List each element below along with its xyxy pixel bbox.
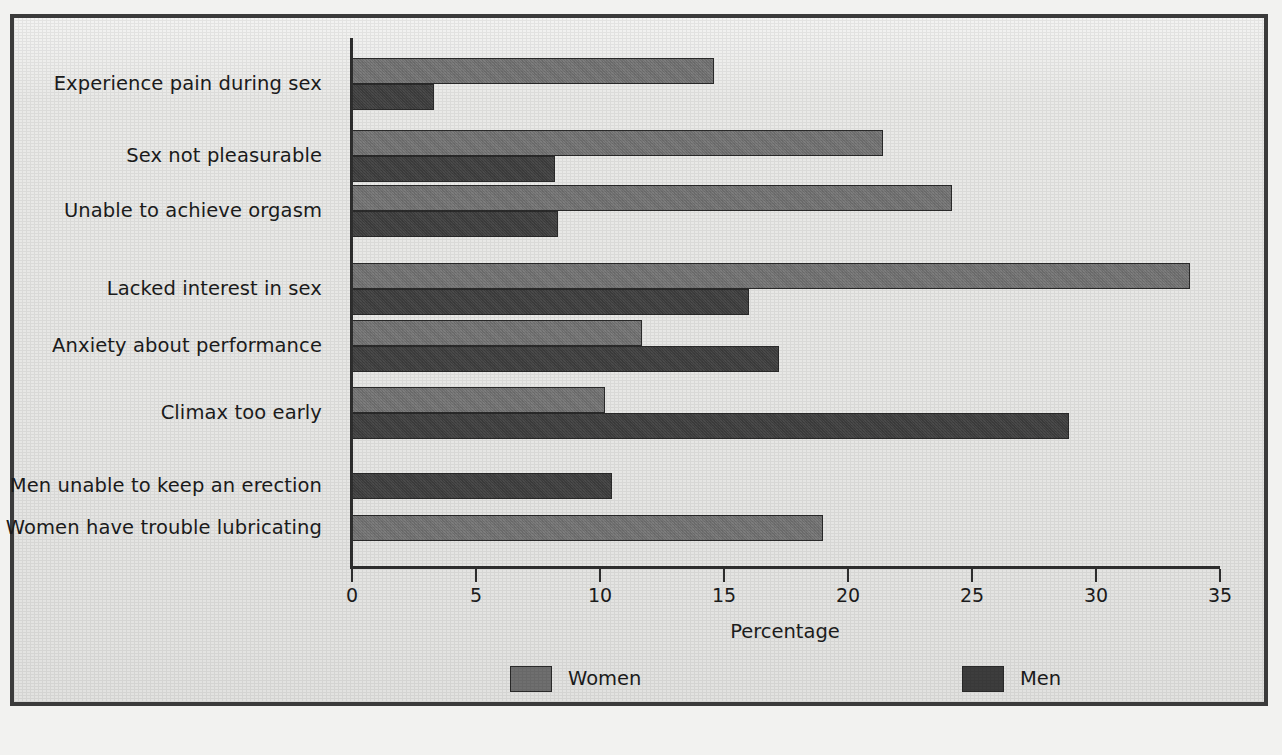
chart-figure-frame: Experience pain during sex Sex not pleas…: [10, 14, 1268, 706]
x-tick-label-20: 20: [836, 586, 860, 605]
bar-women-7: [352, 515, 823, 541]
page-canvas: Experience pain during sex Sex not pleas…: [0, 0, 1282, 755]
x-tick-35: [1219, 569, 1221, 582]
x-axis-title: Percentage: [350, 620, 1220, 643]
bar-men-0: [352, 84, 434, 110]
bar-men-2: [352, 211, 558, 237]
bar-women-1: [352, 130, 883, 156]
category-label-3: Lacked interest in sex: [107, 279, 322, 299]
bar-women-4: [352, 320, 642, 346]
y-axis-line: [350, 38, 353, 566]
x-tick-15: [723, 569, 725, 582]
x-tick-label-35: 35: [1208, 586, 1232, 605]
x-axis-line: [350, 566, 1220, 569]
legend-swatch-women-icon: [510, 666, 552, 692]
bar-women-5: [352, 387, 605, 413]
bar-men-3: [352, 289, 749, 315]
category-label-1: Sex not pleasurable: [126, 146, 322, 166]
category-label-5: Climax too early: [161, 403, 322, 423]
bar-women-0: [352, 58, 714, 84]
category-label-6: Men unable to keep an erection: [10, 476, 322, 496]
x-tick-label-0: 0: [346, 586, 358, 605]
category-label-2: Unable to achieve orgasm: [64, 201, 322, 221]
x-tick-label-30: 30: [1084, 586, 1108, 605]
bar-men-4: [352, 346, 779, 372]
bar-chart-plot-area: Experience pain during sex Sex not pleas…: [14, 18, 1264, 702]
legend-label-women: Women: [568, 669, 641, 689]
x-tick-5: [475, 569, 477, 582]
bar-women-3: [352, 263, 1190, 289]
category-label-4: Anxiety about performance: [52, 336, 322, 356]
x-tick-label-25: 25: [960, 586, 984, 605]
bar-men-1: [352, 156, 555, 182]
legend-label-men: Men: [1020, 669, 1061, 689]
x-tick-25: [971, 569, 973, 582]
category-label-7: Women have trouble lubricating: [6, 518, 322, 538]
legend-swatch-men-icon: [962, 666, 1004, 692]
x-tick-10: [599, 569, 601, 582]
x-tick-30: [1095, 569, 1097, 582]
category-label-0: Experience pain during sex: [54, 74, 322, 94]
bar-men-5: [352, 413, 1069, 439]
x-tick-label-15: 15: [712, 586, 736, 605]
legend-item-women: Women: [510, 666, 641, 692]
chart-legend: Women Men: [350, 666, 1220, 706]
x-tick-label-5: 5: [470, 586, 482, 605]
legend-item-men: Men: [962, 666, 1061, 692]
bar-women-2: [352, 185, 952, 211]
bar-men-6: [352, 473, 612, 499]
x-tick-label-10: 10: [588, 586, 612, 605]
x-tick-0: [351, 569, 353, 582]
x-tick-20: [847, 569, 849, 582]
